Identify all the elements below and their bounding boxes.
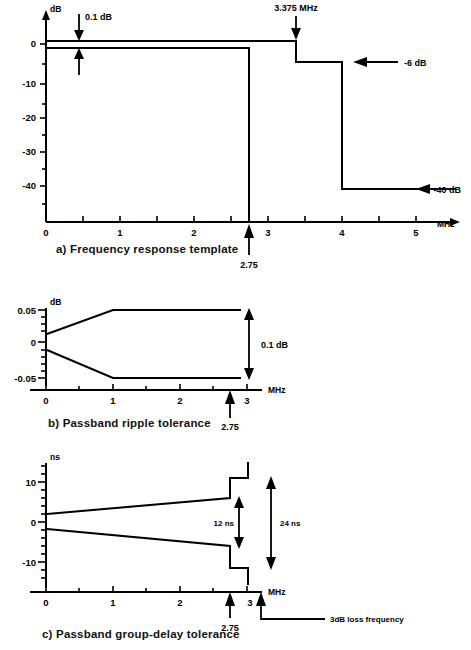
panel-b-xtick-0: 0 (43, 395, 48, 406)
panel-a-xtick-3: 3 (265, 227, 270, 238)
panel-b-ripple-span-arrow-top (244, 308, 254, 320)
panel-b-ytick-p005: 0.05 (18, 305, 37, 316)
panel-a-caption: a) Frequency response template (56, 243, 238, 255)
panel-c-loss-frequency-arrow-head (256, 592, 266, 606)
panel-b-x-unit-label: MHz (268, 385, 285, 395)
panel-b-lower-tolerance (47, 350, 241, 378)
panel-a-ytick-m10: -10 (22, 78, 36, 89)
panel-c-xtick-2: 2 (177, 597, 182, 608)
panel-c-ytick-m10: -10 (22, 557, 36, 568)
panel-a-level-6db-arrow-head (353, 57, 367, 67)
panel-a-corner-frequency-annotation: 3.375 MHz (274, 3, 318, 40)
panel-c-outer-span-label: 24 ns (280, 519, 301, 528)
panel-a-ripple-arrow-down-head (74, 30, 84, 41)
panel-c-loss-frequency-label: 3dB loss frequency (330, 615, 404, 624)
panel-b-y-unit-label: dB (50, 297, 61, 307)
panel-c-outer-span-arrow-bottom (266, 557, 276, 570)
panel-b-xtick-1: 1 (110, 395, 116, 406)
figure-container: 0 -10 -20 -30 -40 0 1 2 3 4 5 dB MHz (0, 0, 471, 650)
panel-a-y-axis-arrowhead (42, 10, 50, 20)
panel-a-ytick-0: 0 (31, 38, 36, 49)
panel-b-xtick-2: 2 (177, 395, 182, 406)
panel-c-inner-span-label: 12 ns (214, 519, 235, 528)
panel-a-x-unit-label: MHz (437, 219, 454, 229)
panel-a-level-6db-label: -6 dB (404, 58, 427, 68)
panel-b-passband-edge-annotation: 2.75 (221, 390, 239, 432)
panel-a-frequency-response: 0 -10 -20 -30 -40 0 1 2 3 4 5 dB MHz (22, 3, 461, 270)
panel-a-passband-edge-label: 2.75 (240, 260, 258, 270)
panel-b-ytick-m005: -0.05 (14, 373, 36, 384)
panel-c-outer-span-annotation: 24 ns (266, 476, 301, 570)
panel-a-ripple-arrow-up-head (74, 48, 84, 59)
panel-a-xtick-5: 5 (413, 227, 419, 238)
panel-a-level-40db-arrow-head (416, 184, 430, 194)
panel-b-passband-ripple: 0.05 0 -0.05 0 1 2 3 dB MHz 0.1 dB (14, 297, 288, 432)
panel-b-ripple-span-arrow-bottom (244, 368, 254, 380)
panel-a-level-40db-annotation: -40 dB (416, 184, 461, 195)
panel-a-ripple-annotation: 0.1 dB (74, 12, 113, 75)
panel-c-group-delay: 10 0 -10 0 1 2 3 ns MHz 12 ns (22, 452, 404, 633)
panel-c-lower-tolerance (47, 529, 248, 585)
panel-c-xtick-3: 3 (247, 597, 252, 608)
panel-c-y-unit-label: ns (50, 452, 60, 462)
panel-b-upper-tolerance (47, 310, 241, 334)
panel-a-xtick-0: 0 (43, 227, 48, 238)
panel-a-lower-envelope (46, 48, 249, 222)
panel-b-ripple-span-label: 0.1 dB (261, 340, 289, 350)
panel-a-corner-frequency-label: 3.375 MHz (274, 3, 318, 13)
panel-c-ytick-p10: 10 (25, 477, 36, 488)
panel-c-inner-span-arrow-bottom (234, 537, 244, 549)
panel-a-level-40db-label: -40 dB (433, 185, 461, 195)
panel-c-xtick-0: 0 (43, 597, 48, 608)
panel-a-ytick-m30: -30 (22, 146, 36, 157)
panel-a-level-6db-annotation: -6 dB (353, 57, 427, 68)
panel-b-y-ticks (38, 310, 46, 378)
technical-figure-svg: 0 -10 -20 -30 -40 0 1 2 3 4 5 dB MHz (0, 0, 471, 650)
panel-a-passband-edge-arrow-head (244, 224, 254, 238)
panel-b-ripple-span-annotation: 0.1 dB (244, 308, 289, 380)
panel-c-inner-span-arrow-top (234, 496, 244, 508)
panel-b-passband-edge-arrow-head (225, 390, 235, 404)
panel-a-ytick-m20: -20 (22, 112, 36, 123)
panel-c-passband-edge-arrow-head (225, 592, 235, 606)
panel-a-corner-frequency-arrow-head (291, 28, 301, 40)
panel-c-upper-tolerance (47, 462, 248, 514)
panel-b-ytick-0: 0 (31, 337, 36, 348)
panel-c-x-unit-label: MHz (268, 587, 285, 597)
panel-a-ripple-label: 0.1 dB (85, 12, 113, 22)
panel-c-xtick-1: 1 (110, 597, 116, 608)
panel-a-y-unit-label: dB (50, 4, 61, 14)
panel-a-xtick-1: 1 (117, 227, 123, 238)
panel-c-passband-edge-annotation: 2.75 (221, 592, 239, 633)
panel-a-upper-envelope (46, 41, 436, 189)
panel-c-ytick-0: 0 (31, 517, 36, 528)
panel-c-y-ticks (38, 466, 46, 578)
panel-b-passband-edge-label: 2.75 (221, 422, 239, 432)
panel-a-passband-edge-annotation: 2.75 (240, 224, 258, 270)
panel-b-caption: b) Passband ripple tolerance (48, 417, 211, 429)
panel-b-xtick-3: 3 (244, 395, 249, 406)
panel-c-inner-span-annotation: 12 ns (214, 496, 244, 549)
panel-a-ytick-m40: -40 (22, 180, 36, 191)
panel-c-outer-span-arrow-top (266, 476, 276, 489)
panel-c-loss-frequency-leader (261, 612, 325, 619)
panel-c-caption: c) Passband group-delay tolerance (42, 628, 240, 640)
panel-a-xtick-2: 2 (191, 227, 196, 238)
panel-a-xtick-4: 4 (339, 227, 345, 238)
